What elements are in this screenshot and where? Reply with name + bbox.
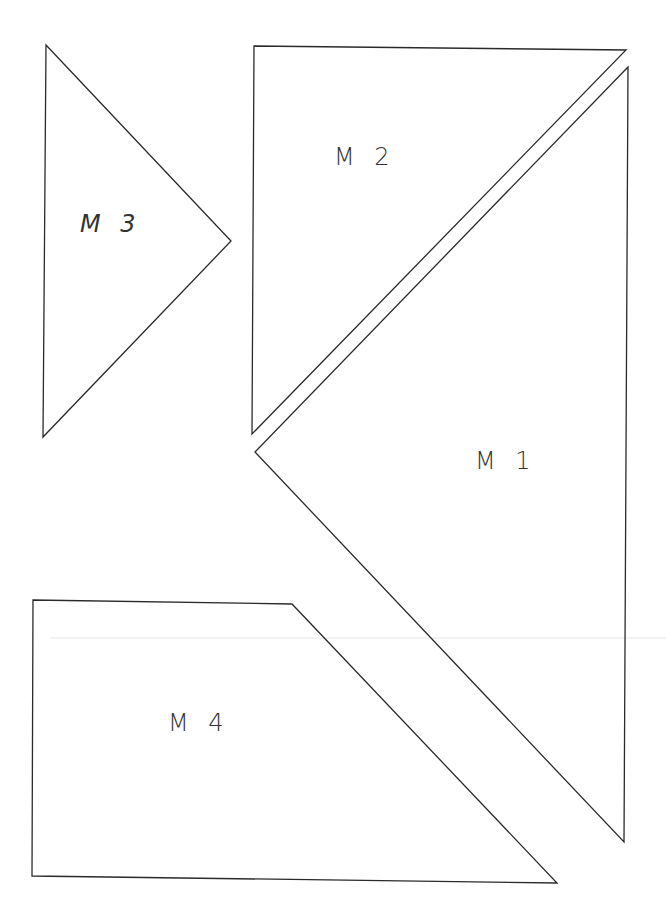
label-m3: M 3 (80, 210, 142, 238)
diagram-canvas: M 1 M 2 M 3 M 4 (0, 0, 666, 923)
piece-m1-triangle (255, 67, 628, 842)
label-m4: M 4 (168, 709, 230, 737)
piece-m2-triangle (252, 46, 626, 434)
piece-m3-triangle (43, 45, 231, 437)
shapes-layer (0, 0, 666, 923)
label-m2: M 2 (334, 143, 396, 171)
label-m1: M 1 (475, 447, 537, 475)
piece-m4-trapezoid (32, 600, 557, 883)
